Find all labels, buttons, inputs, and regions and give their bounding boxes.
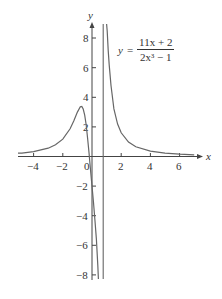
function-formula: y = 11x + 2 2x³ − 1 [118, 36, 174, 63]
svg-text:4: 4 [83, 91, 89, 103]
svg-text:−6: −6 [76, 239, 88, 251]
svg-text:−2: −2 [56, 160, 68, 172]
x-ticks [34, 153, 180, 157]
formula-denominator: 2x³ − 1 [140, 50, 172, 63]
svg-text:−4: −4 [76, 210, 88, 222]
svg-text:8: 8 [83, 32, 89, 44]
y-axis-label: y [87, 9, 93, 21]
y-axis-arrow-icon [90, 22, 95, 28]
formula-numerator: 11x + 2 [137, 36, 174, 50]
formula-fraction: 11x + 2 2x³ − 1 [137, 36, 174, 63]
x-axis-arrow-icon [197, 154, 203, 159]
svg-text:−4: −4 [27, 160, 39, 172]
svg-text:−2: −2 [76, 180, 88, 192]
svg-text:0: 0 [84, 160, 90, 172]
function-plot: x y −4 −2 0 2 4 6 8 6 4 2 −2 −4 −6 −8 [0, 0, 222, 299]
x-tick-labels: −4 −2 0 2 4 6 [27, 160, 182, 172]
svg-text:2: 2 [118, 160, 124, 172]
svg-text:6: 6 [83, 62, 89, 74]
svg-text:−8: −8 [76, 269, 88, 281]
formula-equals: = [127, 44, 133, 56]
svg-text:4: 4 [147, 160, 153, 172]
x-axis-label: x [205, 150, 211, 162]
formula-lhs: y [118, 44, 123, 56]
svg-text:6: 6 [176, 160, 182, 172]
